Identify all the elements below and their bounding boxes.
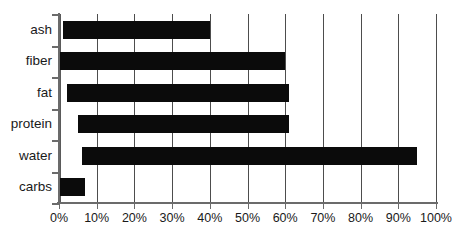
x-axis-tick: [285, 203, 286, 209]
gridline-40%: [210, 14, 211, 203]
x-axis-tick: [210, 203, 211, 209]
x-axis-tick: [248, 203, 249, 209]
gridline-50%: [248, 14, 249, 203]
x-axis-tick: [97, 203, 98, 209]
y-label-text: fat: [0, 86, 52, 100]
y-label-protein: protein: [0, 117, 52, 131]
plot-area: [59, 14, 436, 203]
x-label-0%: 0%: [50, 211, 68, 225]
y-label-ash: ash: [0, 23, 52, 37]
y-label-text: carbs: [0, 180, 52, 194]
x-axis-tick: [134, 203, 135, 209]
gridline-20%: [134, 14, 135, 203]
x-label-30%: 30%: [160, 211, 185, 225]
y-label-text: ash: [0, 23, 52, 37]
y-axis-tick: [52, 172, 59, 174]
x-label-70%: 70%: [310, 211, 335, 225]
gridline-60%: [285, 14, 286, 203]
x-axis-tick: [398, 203, 399, 209]
bar-carbs: [59, 178, 85, 196]
bar-chart: ashfiberfatproteinwatercarbs 0%10%20%30%…: [0, 0, 461, 240]
gridline-90%: [398, 14, 399, 203]
y-label-fat: fat: [0, 86, 52, 100]
gridline-80%: [361, 14, 362, 203]
x-label-20%: 20%: [122, 211, 147, 225]
bar-water: [82, 147, 418, 165]
y-axis-tick: [52, 46, 59, 48]
x-axis-tick: [323, 203, 324, 209]
gridline-10%: [97, 14, 98, 203]
y-axis-tick: [52, 140, 59, 142]
x-axis-tick: [436, 203, 437, 209]
y-axis-tick: [52, 109, 59, 111]
bar-protein: [78, 115, 289, 133]
y-label-carbs: carbs: [0, 180, 52, 194]
x-axis-tick: [172, 203, 173, 209]
bar-fat: [67, 84, 289, 102]
y-label-text: water: [0, 149, 52, 163]
y-axis-tick: [52, 77, 59, 79]
gridline-30%: [172, 14, 173, 203]
bar-ash: [63, 21, 210, 39]
gridline-100%: [436, 14, 437, 203]
x-axis-tick: [361, 203, 362, 209]
x-label-40%: 40%: [197, 211, 222, 225]
y-label-text: fiber: [0, 54, 52, 68]
x-label-10%: 10%: [84, 211, 109, 225]
y-label-fiber: fiber: [0, 54, 52, 68]
x-label-50%: 50%: [235, 211, 260, 225]
x-label-60%: 60%: [273, 211, 298, 225]
y-label-text: protein: [0, 117, 52, 131]
x-label-80%: 80%: [348, 211, 373, 225]
y-axis-tick: [52, 203, 59, 205]
y-axis-tick: [52, 14, 59, 16]
x-label-90%: 90%: [386, 211, 411, 225]
bar-fiber: [59, 52, 285, 70]
gridline-70%: [323, 14, 324, 203]
x-axis-tick: [59, 203, 60, 209]
y-label-water: water: [0, 149, 52, 163]
x-label-100%: 100%: [420, 211, 452, 225]
